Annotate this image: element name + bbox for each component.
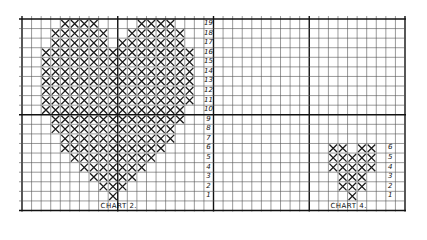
cross-stitch-icon: [128, 106, 136, 114]
cross-stitch-icon: [100, 77, 108, 85]
cross-stitch-icon: [186, 87, 194, 95]
cross-stitch-icon: [90, 39, 98, 47]
cross-stitch-icon: [71, 106, 79, 114]
cross-stitch-icon: [109, 173, 117, 181]
cross-stitch-icon: [71, 49, 79, 57]
cross-stitch-icon: [157, 39, 165, 47]
cross-stitch-icon: [119, 164, 127, 172]
cross-stitch-icon: [358, 173, 366, 181]
cross-stitch-icon: [100, 68, 108, 76]
cross-stitch-icon: [138, 20, 146, 28]
cross-stitch-icon: [147, 144, 155, 152]
cross-stitch-icon: [157, 30, 165, 38]
cross-stitch-icon: [128, 125, 136, 133]
cross-stitch-icon: [52, 39, 60, 47]
cross-stitch-icon: [157, 49, 165, 57]
cross-stitch-icon: [157, 87, 165, 95]
cross-stitch-icon: [42, 77, 50, 85]
cross-stitch-icon: [109, 135, 117, 143]
cross-stitch-icon: [119, 135, 127, 143]
row-number: 4: [386, 163, 395, 172]
cross-stitch-icon: [71, 39, 79, 47]
row-number: 10: [204, 105, 213, 114]
cross-stitch-icon: [147, 87, 155, 95]
cross-stitch-icon: [90, 20, 98, 28]
cross-stitch-icon: [128, 58, 136, 66]
chart-title: CHART 2.: [101, 202, 137, 210]
cross-stitch-icon: [186, 77, 194, 85]
row-number: 6: [386, 143, 395, 152]
cross-stitch-icon: [90, 30, 98, 38]
cross-stitch-icon: [80, 116, 88, 124]
cross-stitch-icon: [147, 68, 155, 76]
cross-stitch-icon: [52, 58, 60, 66]
cross-stitch-icon: [90, 87, 98, 95]
cross-stitch-icon: [109, 125, 117, 133]
cross-stitch-icon: [329, 144, 337, 152]
row-number: 16: [204, 48, 213, 57]
cross-stitch-icon: [138, 97, 146, 105]
cross-stitch-icon: [128, 164, 136, 172]
cross-stitch-icon: [61, 49, 69, 57]
cross-stitch-icon: [61, 30, 69, 38]
cross-stitch-icon: [157, 20, 165, 28]
cross-stitch-icon: [147, 49, 155, 57]
cross-stitch-icon: [42, 106, 50, 114]
cross-stitch-icon: [71, 125, 79, 133]
cross-stitch-icon: [61, 77, 69, 85]
cross-stitch-icon: [167, 68, 175, 76]
row-number: 5: [386, 153, 395, 162]
cross-stitch-icon: [368, 154, 376, 162]
cross-stitch-icon: [186, 97, 194, 105]
cross-stitch-icon: [61, 20, 69, 28]
cross-stitch-icon: [80, 68, 88, 76]
row-number: 2: [204, 182, 213, 191]
cross-stitch-icon: [42, 68, 50, 76]
cross-stitch-icon: [80, 97, 88, 105]
cross-stitch-icon: [329, 164, 337, 172]
row-number: 3: [204, 172, 213, 181]
cross-stitch-icon: [176, 116, 184, 124]
cross-stitch-icon: [157, 106, 165, 114]
cross-stitch-icon: [147, 116, 155, 124]
cross-stitch-icon: [119, 116, 127, 124]
cross-stitch-icon: [71, 30, 79, 38]
cross-stitch-icon: [119, 58, 127, 66]
row-number: 18: [204, 29, 213, 38]
cross-stitch-icon: [109, 68, 117, 76]
cross-stitch-icon: [90, 68, 98, 76]
cross-stitch-icon: [147, 58, 155, 66]
cross-stitch-icon: [100, 144, 108, 152]
cross-stitch-icon: [52, 125, 60, 133]
cross-stitch-icon: [90, 97, 98, 105]
cross-stitch-icon: [90, 173, 98, 181]
cross-stitch-icon: [128, 68, 136, 76]
cross-stitch-icon: [109, 144, 117, 152]
cross-stitch-icon: [157, 97, 165, 105]
cross-stitch-icon: [186, 49, 194, 57]
cross-stitch-icon: [119, 87, 127, 95]
cross-stitch-icon: [119, 106, 127, 114]
cross-stitch-icon: [128, 49, 136, 57]
cross-stitch-icon: [147, 77, 155, 85]
cross-stitch-icon: [100, 49, 108, 57]
cross-stitch-icon: [71, 154, 79, 162]
cross-stitch-icon: [339, 154, 347, 162]
cross-stitch-icon: [100, 87, 108, 95]
cross-stitch-icon: [71, 135, 79, 143]
cross-stitch-icon: [61, 125, 69, 133]
cross-stitch-icon: [80, 135, 88, 143]
cross-stitch-icon: [128, 97, 136, 105]
cross-stitch-icon: [80, 30, 88, 38]
cross-stitch-icon: [90, 144, 98, 152]
cross-stitch-icon: [128, 135, 136, 143]
row-number: 17: [204, 38, 213, 47]
cross-stitch-icon: [147, 125, 155, 133]
cross-stitch-icon: [147, 135, 155, 143]
cross-stitch-icon: [176, 106, 184, 114]
cross-stitch-icon: [157, 144, 165, 152]
cross-stitch-icon: [147, 106, 155, 114]
chart-title: CHART 4.: [330, 202, 366, 210]
cross-stitch-icon: [109, 58, 117, 66]
row-number: 5: [204, 153, 213, 162]
